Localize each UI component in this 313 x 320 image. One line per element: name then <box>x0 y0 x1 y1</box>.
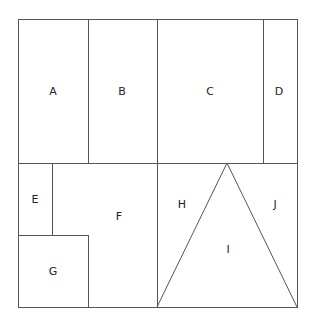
region-label-j: J <box>272 198 276 211</box>
region-label-b: B <box>118 85 126 98</box>
region-label-g: G <box>49 265 58 278</box>
region-label-i: I <box>226 243 229 256</box>
region-label-e: E <box>32 193 39 206</box>
region-label-c: C <box>206 85 214 98</box>
triangle-left-edge <box>157 163 227 307</box>
triangle-right-edge <box>227 163 297 307</box>
region-label-h: H <box>178 198 186 211</box>
region-label-a: A <box>49 85 57 98</box>
region-label-f: F <box>116 210 122 223</box>
partition-diagram: A B C D E F G H I J <box>0 0 313 320</box>
region-label-d: D <box>275 85 283 98</box>
